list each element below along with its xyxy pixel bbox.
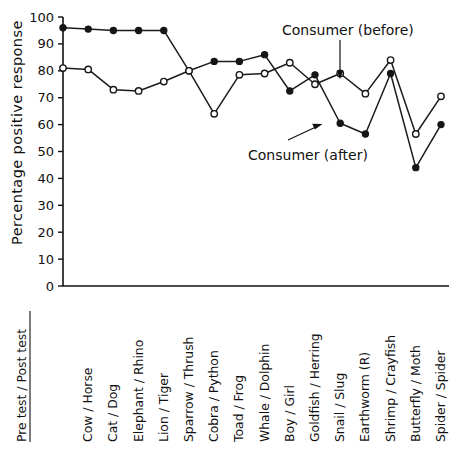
data-point <box>85 26 91 32</box>
data-point <box>110 86 116 92</box>
series-consumer-after <box>60 57 444 137</box>
data-point <box>211 58 217 64</box>
annotation-after-leader <box>288 126 318 140</box>
category-label: Shrimp / Crayfish <box>383 335 398 442</box>
y-tick-label: 40 <box>37 171 54 186</box>
annotation-before-label: Consumer (before) <box>282 22 414 38</box>
data-point <box>236 58 242 64</box>
data-point <box>161 27 167 33</box>
category-label: Cobra / Python <box>206 350 221 442</box>
y-tick-label: 0 <box>46 279 54 294</box>
chart-svg: Percentage positive response 01020304050… <box>0 0 457 449</box>
data-point <box>161 78 167 84</box>
chart-container: Percentage positive response 01020304050… <box>0 0 457 449</box>
data-point <box>135 88 141 94</box>
category-label: Elephant / Rhino <box>131 340 146 442</box>
data-point <box>211 111 217 117</box>
category-label: Whale / Dolphin <box>257 344 272 442</box>
data-point <box>262 52 268 58</box>
data-point <box>85 66 91 72</box>
data-point <box>110 27 116 33</box>
y-tick-label: 20 <box>37 225 54 240</box>
y-tick-label: 50 <box>37 144 54 159</box>
category-label: Lion / Tiger <box>156 372 171 442</box>
data-point <box>362 90 368 96</box>
data-point <box>312 81 318 87</box>
category-axis-header: Pre test / Post test <box>14 311 30 442</box>
data-point <box>337 120 343 126</box>
category-label: Butterfly / Moth <box>408 345 423 442</box>
y-axis-ticks: 0102030405060708090100 <box>29 10 63 294</box>
y-tick-label: 80 <box>37 63 54 78</box>
annotation-after-label: Consumer (after) <box>248 147 368 163</box>
data-point <box>387 57 393 63</box>
data-point <box>362 131 368 137</box>
y-axis-label: Percentage positive response <box>9 20 25 245</box>
data-point <box>312 72 318 78</box>
category-header-label: Pre test / Post test <box>14 329 29 442</box>
category-label: Boy / Girl <box>282 385 297 442</box>
data-point <box>413 131 419 137</box>
data-point <box>60 65 66 71</box>
category-labels: Cow / HorseCat / DogElephant / RhinoLion… <box>80 333 448 443</box>
category-label: Sparrow / Thrush <box>181 337 196 442</box>
data-point <box>287 88 293 94</box>
annotation-after-arrowhead <box>312 124 322 130</box>
data-point <box>413 165 419 171</box>
y-tick-label: 10 <box>37 252 54 267</box>
data-point <box>287 60 293 66</box>
data-point <box>186 68 192 74</box>
y-tick-label: 90 <box>37 36 54 51</box>
y-tick-label: 60 <box>37 117 54 132</box>
category-label: Snail / Slug <box>332 373 347 442</box>
category-label: Toad / Frog <box>231 375 246 443</box>
category-label: Goldfish / Herring <box>307 333 322 442</box>
data-point <box>388 70 394 76</box>
category-label: Cow / Horse <box>80 368 95 443</box>
y-tick-label: 30 <box>37 198 54 213</box>
y-tick-label: 70 <box>37 90 54 105</box>
data-point <box>136 27 142 33</box>
data-point <box>438 122 444 128</box>
category-label: Spider / Spider <box>433 350 448 442</box>
data-point <box>236 72 242 78</box>
category-label: Cat / Dog <box>105 384 120 442</box>
annotation-consumer-after: Consumer (after) <box>248 124 368 163</box>
data-point <box>60 25 66 31</box>
category-label: Earthworm (R) <box>357 352 372 442</box>
series-polyline <box>63 60 441 134</box>
y-tick-label: 100 <box>29 10 54 25</box>
data-point <box>438 93 444 99</box>
data-point <box>261 70 267 76</box>
